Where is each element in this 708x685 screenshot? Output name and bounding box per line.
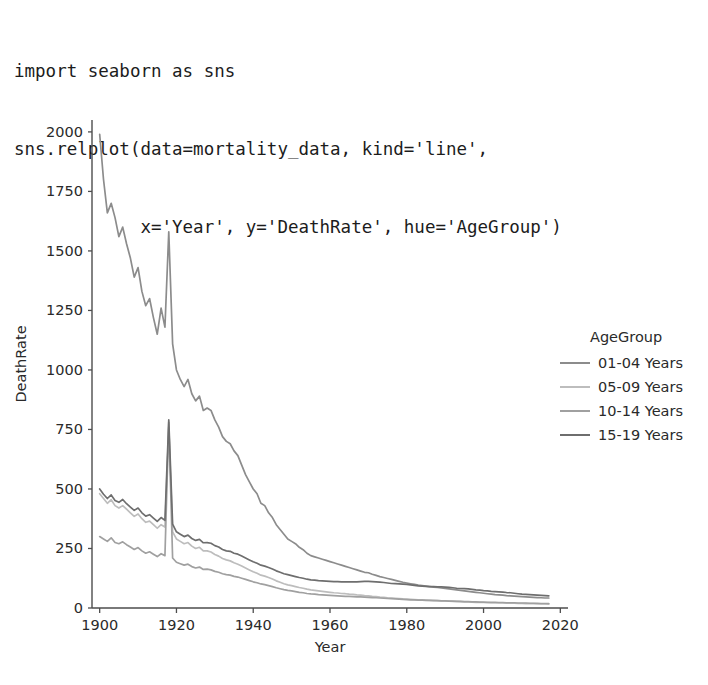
x-tick-label: 1900 xyxy=(81,617,118,633)
data-series-group xyxy=(100,134,549,604)
legend-item[interactable]: 15-19 Years xyxy=(560,423,706,447)
y-tick-label: 250 xyxy=(55,540,83,556)
legend-item-label: 05-09 Years xyxy=(598,378,683,396)
x-tick-label: 1920 xyxy=(158,617,195,633)
y-tick-label: 500 xyxy=(55,481,83,497)
code-line: import seaborn as sns xyxy=(14,58,704,84)
x-tick-label: 1980 xyxy=(388,617,425,633)
y-tick-label: 750 xyxy=(55,421,83,437)
legend-item[interactable]: 01-04 Years xyxy=(560,351,706,375)
seaborn-relplot-figure: 025050075010001250150017502000 190019201… xyxy=(0,100,708,685)
x-tick-label: 2020 xyxy=(542,617,579,633)
y-tick-label: 1000 xyxy=(46,362,83,378)
legend-color-swatch xyxy=(560,410,590,412)
x-axis-ticks: 1900192019401960198020002020 xyxy=(81,608,579,633)
legend-item-label: 10-14 Years xyxy=(598,402,683,420)
y-tick-label: 0 xyxy=(74,600,83,616)
legend-title: AgeGroup xyxy=(590,328,706,346)
y-tick-label: 1250 xyxy=(46,302,83,318)
legend-item-label: 15-19 Years xyxy=(598,426,683,444)
x-tick-label: 1940 xyxy=(235,617,272,633)
chart-legend: AgeGroup 01-04 Years05-09 Years10-14 Yea… xyxy=(560,328,706,447)
x-axis-label: Year xyxy=(314,639,346,655)
y-tick-label: 1500 xyxy=(46,243,83,259)
legend-item[interactable]: 10-14 Years xyxy=(560,399,706,423)
legend-color-swatch xyxy=(560,362,590,364)
y-tick-label: 2000 xyxy=(46,124,83,140)
legend-entries: 01-04 Years05-09 Years10-14 Years15-19 Y… xyxy=(560,351,706,447)
series-line xyxy=(100,134,549,598)
y-tick-label: 1750 xyxy=(46,183,83,199)
legend-color-swatch xyxy=(560,434,590,436)
legend-color-swatch xyxy=(560,386,590,388)
y-axis-ticks: 025050075010001250150017502000 xyxy=(46,124,92,616)
y-axis-label: DeathRate xyxy=(13,325,29,402)
legend-item[interactable]: 05-09 Years xyxy=(560,375,706,399)
x-tick-label: 1960 xyxy=(312,617,349,633)
legend-item-label: 01-04 Years xyxy=(598,354,683,372)
x-tick-label: 2000 xyxy=(465,617,502,633)
